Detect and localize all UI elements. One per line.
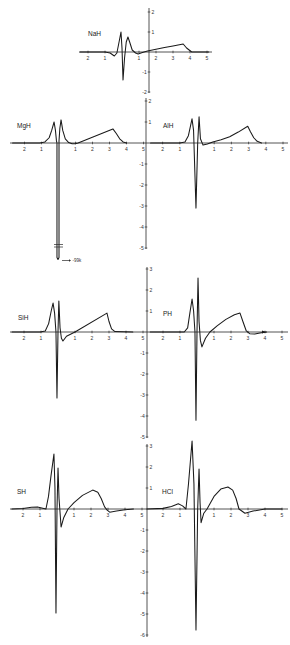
x-tick-label: 2 [23,335,26,341]
x-tick-label: 1 [39,512,42,518]
sh-curve [12,454,134,613]
x-tick-label: 2 [162,335,165,341]
x-tick-label: 2 [23,146,26,152]
axes-layer: 2112345211234521123452112345211234521123… [10,8,288,638]
y-tick-label: 2 [149,98,152,104]
x-tick-label: 1 [73,512,76,518]
x-tick-label: 2 [161,146,164,152]
x-tick-label: 2 [230,512,233,518]
mgh-curve [13,120,127,260]
x-tick-label: 1 [104,55,107,61]
y-tick-label: 2 [150,464,153,470]
x-tick-label: 1 [138,55,141,61]
x-tick-label: 5 [282,146,285,152]
offscale-value-label: -99k [73,258,83,263]
y-tick-label: 1 [150,485,153,491]
y-tick-label: -4 [140,590,145,596]
x-tick-label: 5 [142,335,145,341]
arrowhead-icon [69,259,71,262]
y-tick-label: 1 [149,119,152,125]
x-tick-label: 1 [179,512,182,518]
x-tick-label: 4 [124,512,127,518]
y-tick-label: -3 [140,392,145,398]
x-tick-label: 1 [213,512,216,518]
x-tick-label: 1 [213,335,216,341]
y-tick-label: -2 [140,371,145,377]
y-tick-label: -4 [140,413,145,419]
alh-curve [151,117,262,208]
x-tick-label: 1 [74,335,77,341]
y-tick-label: 2 [150,287,153,293]
x-tick-label: 4 [264,335,267,341]
y-tick-label: -5 [140,434,145,440]
x-tick-label: 1 [178,146,181,152]
x-tick-label: 2 [87,55,90,61]
y-tick-label: -4 [139,224,144,230]
x-tick-label: 2 [155,55,158,61]
panel-title-alh: AlH [163,122,174,129]
panel-title-nah: NaH [88,30,101,37]
x-tick-label: 5 [281,335,284,341]
x-tick-label: 4 [125,146,128,152]
y-tick-label: -1 [139,161,144,167]
nah-y-axis: 21-1-2 [142,8,154,95]
x-tick-label: 2 [91,146,94,152]
y-tick-label: -2 [140,548,145,554]
y-tick-label: -1 [140,527,145,533]
x-tick-label: 1 [74,146,77,152]
hcl-curve [147,441,282,630]
density-difference-figure: 2112345211234521123452112345211234521123… [0,0,290,645]
x-tick-label: 4 [125,335,128,341]
x-tick-label: 2 [22,512,25,518]
x-tick-label: 4 [264,146,267,152]
panel-title-ph: PH [163,310,172,317]
x-tick-label: 5 [142,146,145,152]
x-tick-label: 1 [213,146,216,152]
x-tick-label: 1 [40,335,43,341]
sih-y-axis: 321-1-2-3-4-5 [140,266,152,440]
x-tick-label: 3 [107,512,110,518]
y-tick-label: -1 [140,350,145,356]
sih-curve [12,301,133,398]
panel-title-sh: SH [17,488,26,495]
x-tick-label: 2 [230,335,233,341]
y-tick-label: -6 [140,632,145,638]
x-tick-label: 5 [206,55,209,61]
x-tick-label: 3 [247,146,250,152]
mgh-y-axis: 21-1-2-3-4-5 [139,98,151,251]
x-tick-label: 3 [172,55,175,61]
y-tick-label: -5 [139,245,144,251]
y-tick-label: -1 [142,69,147,75]
y-tick-label: 2 [152,9,155,15]
x-tick-label: 2 [91,335,94,341]
x-tick-label: 2 [90,512,93,518]
x-tick-label: 4 [189,55,192,61]
y-tick-label: -3 [140,569,145,575]
x-tick-label: 3 [247,335,250,341]
panel-title-sih: SiH [18,314,29,321]
panel-title-mgh: MgH [17,122,31,130]
x-tick-label: 3 [108,335,111,341]
mgh-offscale-annotation: -99k [62,258,82,263]
ph-arrowhead-icon [262,331,266,334]
x-tick-label: 4 [264,512,267,518]
x-tick-label: 1 [40,146,43,152]
x-tick-label: 3 [108,146,111,152]
y-tick-label: -2 [142,89,147,95]
y-tick-label: -3 [139,203,144,209]
x-tick-label: 2 [162,512,165,518]
x-tick-label: 5 [281,512,284,518]
y-tick-label: 1 [150,308,153,314]
ph-curve [150,278,266,420]
y-tick-label: 3 [150,443,153,449]
y-tick-label: 3 [150,266,153,272]
x-tick-label: 5 [141,512,144,518]
y-tick-label: -2 [139,182,144,188]
panel-title-hcl: HCl [162,488,173,495]
y-tick-label: 1 [152,29,155,35]
sh-y-axis: 321-1-2-3-4-5-6 [140,443,152,638]
x-tick-label: 2 [230,146,233,152]
x-tick-label: 1 [179,335,182,341]
y-tick-label: -5 [140,611,145,617]
